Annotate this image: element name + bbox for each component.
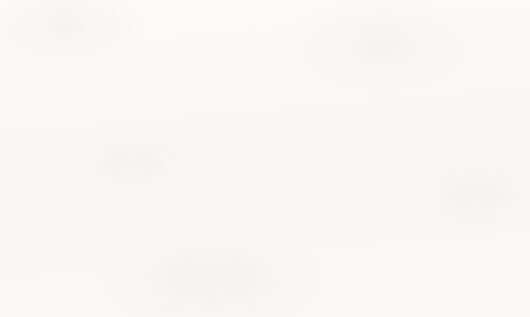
data-series-group	[32, 60, 508, 230]
x-tick-label-2012: 2012	[12, 290, 52, 300]
x-axis-ticks-group	[32, 283, 508, 288]
series-label-1: 300.000/Jahr	[455, 64, 509, 74]
y-tick-label-75: 75	[0, 102, 26, 112]
x-tick-label-2040: 2040	[289, 290, 329, 300]
series-label-4: keine	[478, 196, 501, 206]
x-tick-label-2048: 2048	[369, 290, 409, 300]
x-tick-label-2036: 2036	[250, 290, 290, 300]
x-tick-label-2032: 2032	[210, 290, 250, 300]
x-tick-label-2052: 2052	[408, 290, 448, 300]
x-tick-label-2060: 2060	[488, 290, 528, 300]
y-tick-label-55: 55	[0, 242, 26, 252]
y-tick-label-80: 80	[0, 67, 26, 77]
population-projection-chart: Einwohner Zuwanderung 8580757065605550 2…	[0, 0, 530, 317]
x-tick-label-2020: 2020	[91, 290, 131, 300]
x-tick-label-2056: 2056	[448, 290, 488, 300]
y-tick-label-70: 70	[0, 137, 26, 147]
x-tick-label-2016: 2016	[51, 290, 91, 300]
y-tick-label-50: 50	[0, 278, 26, 288]
chart-plot-area	[0, 0, 530, 317]
x-tick-label-2044: 2044	[329, 290, 369, 300]
y-tick-label-60: 60	[0, 207, 26, 217]
y-tick-label-85: 85	[0, 32, 26, 42]
x-tick-label-2024: 2024	[131, 290, 171, 300]
series-label-3: 100.000/Jahr	[455, 134, 509, 144]
x-tick-label-2028: 2028	[170, 290, 210, 300]
y-tick-label-65: 65	[0, 172, 26, 182]
series-label-2: 200.000/Jahr	[455, 99, 509, 109]
